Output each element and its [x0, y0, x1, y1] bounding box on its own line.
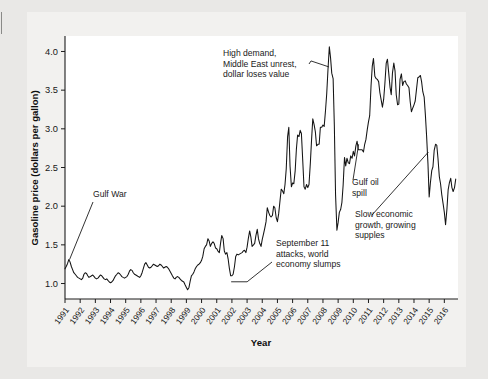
- x-tick-label: 2011: [356, 305, 375, 326]
- x-tick-label: 1996: [128, 305, 147, 326]
- annotation-line: Slow economic: [355, 209, 413, 219]
- annotation-line: Middle East unrest,: [223, 59, 297, 69]
- annotation-line: growth, growing: [355, 220, 416, 230]
- annotation-line: September 11: [276, 238, 330, 248]
- figure-card: Gasoline price (dollars per gallon) Year…: [27, 12, 466, 367]
- annotation-line: High demand,: [223, 48, 277, 58]
- x-tick-label: 1991: [52, 305, 71, 326]
- x-tick-label: 1999: [173, 305, 192, 326]
- x-tick-label: 2013: [386, 305, 405, 326]
- x-tick-label: 1997: [143, 305, 162, 326]
- x-tick-label: 1992: [67, 305, 86, 326]
- annotation-line: supples: [355, 230, 385, 240]
- x-tick-label: 2000: [189, 305, 208, 326]
- x-tick-label: 2010: [340, 305, 359, 326]
- y-tick-label: 4.0: [45, 47, 58, 57]
- annotation-line: Gulf War: [93, 189, 127, 199]
- x-axis: 1991199219931994199519961997199819992000…: [52, 299, 458, 326]
- x-tick-label: 2016: [431, 305, 450, 326]
- y-tick-label: 1.0: [45, 279, 58, 289]
- x-tick-label: 2008: [310, 305, 329, 326]
- x-axis-title: Year: [251, 337, 272, 348]
- x-tick-label: 2009: [325, 305, 344, 326]
- y-tick-label: 2.5: [45, 163, 58, 173]
- x-tick-label: 2006: [280, 305, 299, 326]
- figure-page: Gasoline price (dollars per gallon) Year…: [0, 0, 488, 379]
- y-tick-label: 2.0: [45, 201, 58, 211]
- x-tick-label: 2005: [265, 305, 284, 326]
- x-tick-label: 1993: [82, 305, 101, 326]
- y-axis-title: Gasoline price (dollars per gallon): [29, 90, 40, 245]
- x-tick-label: 2002: [219, 305, 238, 326]
- x-tick-label: 2015: [416, 305, 435, 326]
- annotation-line: Gulf oil: [352, 177, 379, 187]
- annotation-line: dollar loses value: [223, 69, 290, 79]
- y-axis: 1.01.52.02.53.03.54.0: [45, 36, 65, 299]
- x-tick-label: 2003: [234, 305, 253, 326]
- x-tick-label: 2007: [295, 305, 314, 326]
- annotation-line: economy slumps: [276, 259, 340, 269]
- x-tick-label: 1994: [98, 305, 117, 326]
- x-tick-label: 2001: [204, 305, 223, 326]
- y-tick-label: 3.5: [45, 85, 58, 95]
- x-tick-label: 2004: [249, 305, 268, 326]
- y-tick-label: 3.0: [45, 124, 58, 134]
- x-tick-label: 2014: [401, 305, 420, 326]
- x-tick-label: 2012: [371, 305, 390, 326]
- x-tick-label: 1998: [158, 305, 177, 326]
- y-tick-label: 1.5: [45, 240, 58, 250]
- gasoline-price-line-chart: Gasoline price (dollars per gallon) Year…: [27, 12, 466, 367]
- annotation-line: spill: [352, 188, 367, 198]
- x-tick-label: 1995: [113, 305, 132, 326]
- annotation-line: attacks, world: [276, 249, 329, 259]
- page-gutter-rule: [1, 12, 2, 34]
